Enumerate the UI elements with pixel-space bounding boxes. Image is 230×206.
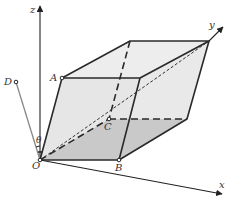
line-OD: [16, 82, 40, 160]
label-D: D: [3, 76, 12, 87]
label-y: y: [208, 19, 215, 30]
label-B: B: [114, 162, 122, 173]
label-theta: θ: [36, 135, 42, 145]
parallelepiped-diagram: z y x A B C D O θ: [0, 0, 230, 206]
x-axis: [40, 160, 222, 194]
point-A: [60, 76, 64, 80]
label-O: O: [32, 160, 40, 171]
point-D: [14, 80, 18, 84]
label-A: A: [49, 72, 57, 83]
label-x: x: [219, 179, 225, 190]
label-C: C: [104, 121, 112, 132]
angle-theta-arc: [36, 146, 40, 147]
label-z: z: [29, 4, 36, 15]
